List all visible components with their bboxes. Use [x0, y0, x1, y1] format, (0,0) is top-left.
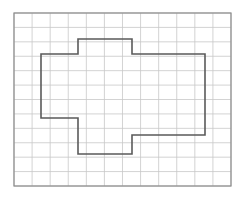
figure-container: [0, 0, 243, 200]
grid-polygon-figure: [0, 0, 243, 200]
